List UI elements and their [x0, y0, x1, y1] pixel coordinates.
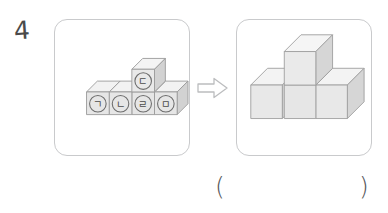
svg-text:ㄹ: ㄹ [138, 98, 148, 110]
svg-text:ㄴ: ㄴ [116, 98, 126, 110]
target-cube-figure [237, 20, 371, 155]
answer-close-paren: ) [359, 174, 369, 199]
svg-text:ㄱ: ㄱ [93, 98, 103, 110]
transform-arrow-icon [196, 76, 230, 100]
right-figure-panel [236, 19, 372, 156]
question-number: 4 [13, 17, 31, 43]
left-figure-panel: ㅁ ㄹ ㄴ [54, 19, 190, 156]
labelled-cube-figure: ㅁ ㄹ ㄴ [55, 20, 189, 155]
answer-open-paren: ( [215, 174, 225, 199]
svg-text:ㅁ: ㅁ [161, 98, 171, 110]
worksheet-page: 4 ㅁ [0, 0, 388, 213]
svg-text:ㄷ: ㄷ [138, 75, 148, 87]
